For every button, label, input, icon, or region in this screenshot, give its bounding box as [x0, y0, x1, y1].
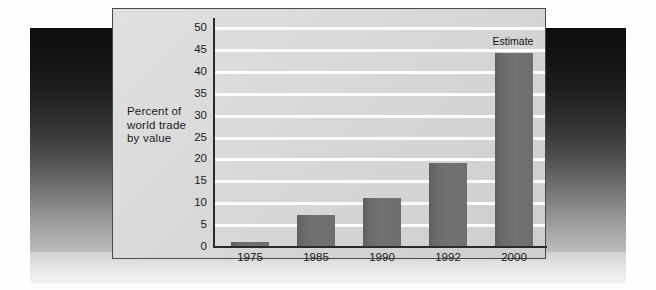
bar[interactable] [429, 163, 467, 246]
bar[interactable] [363, 198, 401, 246]
figure-container: Percent of world trade by value 05101520… [0, 0, 656, 290]
bar[interactable] [231, 242, 269, 246]
y-tick-label: 35 [194, 87, 207, 99]
y-tick-label: 20 [194, 152, 207, 164]
x-tick-label: 1990 [352, 251, 412, 263]
y-tick-label: 15 [194, 174, 207, 186]
bar-group [289, 16, 343, 246]
plot-area: Estimate [213, 18, 545, 248]
x-axis-line [213, 246, 547, 248]
bar-group [355, 16, 409, 246]
bar-group [421, 16, 475, 246]
y-tick-label: 30 [194, 109, 207, 121]
bar-group: Estimate [487, 16, 541, 246]
bar-group [223, 16, 277, 246]
y-tick-label: 45 [194, 43, 207, 55]
y-tick-label: 25 [194, 131, 207, 143]
x-tick-label: 2000 [484, 251, 544, 263]
bar-series: Estimate [215, 18, 545, 246]
x-tick-label: 1975 [220, 251, 280, 263]
x-axis-tick-labels: 19751985199019922000 [215, 251, 545, 267]
bar[interactable] [297, 215, 335, 246]
y-tick-label: 50 [194, 21, 207, 33]
y-tick-label: 40 [194, 65, 207, 77]
y-tick-label: 5 [201, 218, 207, 230]
x-tick-label: 1985 [286, 251, 346, 263]
x-tick-label: 1992 [418, 251, 478, 263]
bar-annotation: Estimate [483, 35, 543, 47]
y-tick-label: 0 [201, 240, 207, 252]
y-axis-tick-labels: 05101520253035404550 [175, 9, 211, 260]
y-tick-label: 10 [194, 196, 207, 208]
chart-panel: Percent of world trade by value 05101520… [112, 8, 546, 259]
bar[interactable] [495, 53, 533, 246]
